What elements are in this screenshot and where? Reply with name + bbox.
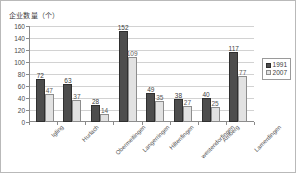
bar-value-label: 63 <box>64 77 71 84</box>
x-axis-label-Igling: Igling <box>51 124 65 138</box>
bar-2007-Hurlach: 37 <box>72 100 81 122</box>
bar-value-label: 37 <box>73 93 80 100</box>
bar-1991-Hurlach: 63 <box>63 84 72 122</box>
legend-label: 2007 <box>273 70 287 77</box>
bar-2007-Igling: 47 <box>45 94 54 122</box>
bar-2007-Amberg: 25 <box>211 107 220 122</box>
y-axis-label: 企业数量（个） <box>9 10 59 20</box>
x-axis-tick-mark <box>254 122 255 125</box>
bar-value-label: 25 <box>211 100 218 107</box>
bar-value-label: 27 <box>184 99 191 106</box>
bar-value-label: 47 <box>46 87 53 94</box>
bar-2007-Obermeitingen: 14 <box>100 114 109 122</box>
chart-figure: 企业数量（个） 020406080100120140160 7247633728… <box>0 0 296 173</box>
y-axis-tick-label: 60 <box>18 83 25 90</box>
y-axis-tick-label: 40 <box>18 95 25 102</box>
y-axis-tick-label: 140 <box>14 35 25 42</box>
bar-groups: 72476337281415210949353827402511777 <box>29 26 254 122</box>
legend-item-2007: 2007 <box>266 70 287 77</box>
bar-value-label: 38 <box>175 92 182 99</box>
bar-value-label: 152 <box>118 24 129 31</box>
y-axis-tick-label: 0 <box>21 119 25 126</box>
bar-group: 6337 <box>59 26 87 122</box>
x-axis-label-Obermeitingen: Obermeitingen <box>114 124 146 156</box>
y-axis-tick-label: 80 <box>18 71 25 78</box>
bar-group: 2814 <box>86 26 114 122</box>
bar-1991-Langerringen: 152 <box>119 31 128 122</box>
bar-value-label: 117 <box>229 45 239 52</box>
bar-value-label: 14 <box>101 107 108 114</box>
bar-value-label: 35 <box>156 94 163 101</box>
bar-group: 152109 <box>114 26 142 122</box>
bar-1991-Obermeitingen: 28 <box>91 105 100 122</box>
x-axis-label-Hurlach: Hurlach <box>81 124 100 143</box>
bar-1991-westendorfingen: 38 <box>174 99 183 122</box>
legend-label: 1991 <box>273 62 287 69</box>
legend: 19912007 <box>262 58 291 80</box>
bar-2007-westendorfingen: 27 <box>183 106 192 122</box>
y-axis-tick-label: 120 <box>14 47 25 54</box>
bar-2007-Langerringen: 109 <box>128 57 137 122</box>
x-axis-label-Lamerdingen: Lamerdingen <box>254 124 283 153</box>
bar-1991-Amberg: 40 <box>202 98 211 122</box>
legend-swatch-1991 <box>266 63 271 68</box>
x-axis-label-Hiltenfingen: Hiltenfingen <box>168 124 195 151</box>
bar-1991-Igling: 72 <box>36 79 45 122</box>
bar-value-label: 77 <box>239 69 246 76</box>
bar-value-label: 28 <box>92 98 99 105</box>
bar-group: 11777 <box>224 26 252 122</box>
legend-swatch-2007 <box>266 70 271 75</box>
y-axis-tick-label: 100 <box>14 59 25 66</box>
plot-area: 020406080100120140160 724763372814152109… <box>29 26 254 122</box>
y-axis-tick-label: 20 <box>18 107 25 114</box>
bar-group: 4935 <box>142 26 170 122</box>
bar-group: 4025 <box>197 26 225 122</box>
bar-1991-Hiltenfingen: 49 <box>146 93 155 122</box>
legend-item-1991: 1991 <box>266 62 287 69</box>
bar-value-label: 72 <box>37 72 44 79</box>
bar-2007-Lamerdingen: 77 <box>238 76 247 122</box>
bar-value-label: 40 <box>202 91 209 98</box>
x-axis-category-labels: IglingHurlachObermeitingenLangerringenHi… <box>29 124 254 172</box>
bar-2007-Hiltenfingen: 35 <box>155 101 164 122</box>
bar-group: 3827 <box>169 26 197 122</box>
bar-1991-Lamerdingen: 117 <box>229 52 238 122</box>
bar-value-label: 49 <box>147 86 154 93</box>
y-axis-tick-label: 160 <box>14 23 25 30</box>
bar-group: 7247 <box>31 26 59 122</box>
bar-value-label: 109 <box>127 50 138 57</box>
